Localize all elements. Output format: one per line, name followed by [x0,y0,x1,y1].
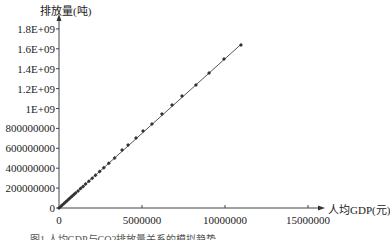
x-tick-label: 5000000 [123,214,162,226]
y-tick-label: 1.8E+09 [17,23,55,35]
x-axis-title: 人均GDP(元) [328,201,390,217]
y-tick-label: 1.2E+09 [17,83,55,95]
y-axis-title: 排放量(吨) [40,2,91,18]
y-tick-label: 0 [50,202,56,214]
y-tick-label: 1.4E+09 [17,63,55,75]
y-tick-label: 1E+09 [26,103,55,115]
y-tick-label: 800000000 [6,122,56,134]
data-point-marker [180,94,184,98]
x-tick-label: 10000000 [203,214,247,226]
y-tick-label: 1.6E+09 [17,43,55,55]
y-tick-label: 200000000 [6,182,56,194]
x-tick-label: 15000000 [286,214,330,226]
data-point-marker [126,143,130,147]
y-tick-label: 400000000 [6,162,56,174]
data-point-marker [239,43,243,47]
data-point-marker [160,112,164,116]
data-point-marker [120,148,124,152]
data-point-marker [141,129,145,133]
x-tick-label: 0 [56,214,62,226]
data-point-marker [170,103,174,107]
x-axis-arrow-icon [318,206,325,211]
y-tick-label: 600000000 [6,142,56,154]
figure-caption: 图1 人均GDP与CO2排放量关系的模拟趋势 [30,233,370,240]
